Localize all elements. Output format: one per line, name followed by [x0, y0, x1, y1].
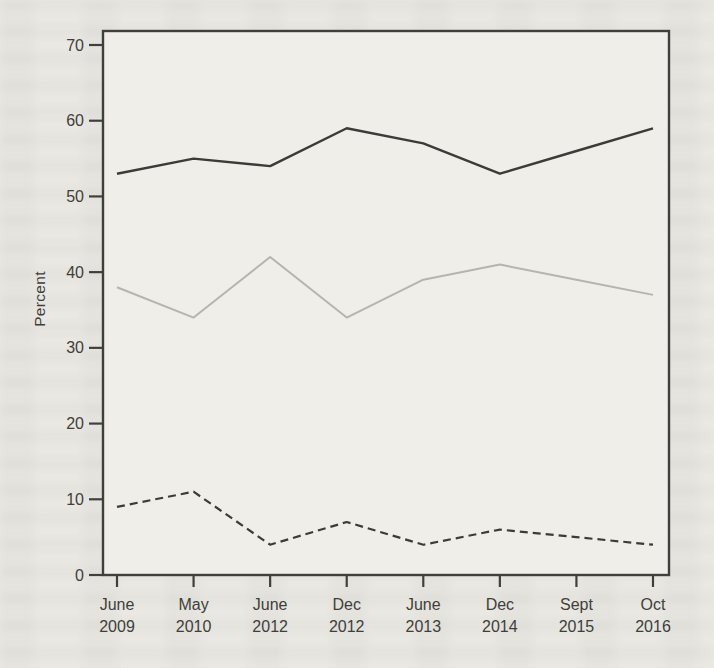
x-tick-label-month: June [100, 596, 135, 613]
y-tick-label: 40 [66, 264, 84, 281]
x-tick-label-month: Sept [560, 596, 593, 613]
y-axis-title: Percent [31, 271, 49, 327]
y-tick-label: 60 [66, 112, 84, 129]
percent-line-chart: 010203040506070June2009May2010June2012De… [0, 0, 714, 668]
x-tick-label-month: May [178, 596, 208, 613]
y-tick-label: 70 [66, 37, 84, 54]
x-tick-label-year: 2016 [635, 618, 671, 635]
y-tick-label: 10 [66, 491, 84, 508]
x-tick-label-year: 2009 [99, 618, 135, 635]
chart-canvas: 010203040506070June2009May2010June2012De… [0, 0, 714, 668]
y-tick-label: 30 [66, 339, 84, 356]
x-tick-label-month: Oct [641, 596, 666, 613]
y-tick-label: 0 [75, 567, 84, 584]
x-tick-label-year: 2012 [329, 618, 365, 635]
x-tick-label-year: 2012 [252, 618, 288, 635]
x-tick-label-year: 2010 [176, 618, 212, 635]
x-tick-label-year: 2014 [482, 618, 518, 635]
x-tick-label-month: June [253, 596, 288, 613]
y-tick-label: 20 [66, 415, 84, 432]
x-tick-label-month: Dec [486, 596, 514, 613]
y-tick-label: 50 [66, 188, 84, 205]
x-tick-label-month: Dec [332, 596, 360, 613]
x-tick-label-year: 2015 [559, 618, 595, 635]
x-tick-label-year: 2013 [405, 618, 441, 635]
scanned-book-page: 010203040506070June2009May2010June2012De… [0, 0, 714, 668]
x-tick-label-month: June [406, 596, 441, 613]
